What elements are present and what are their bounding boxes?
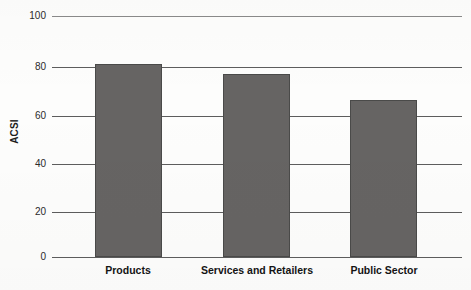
category-label-public-sector: Public Sector <box>350 264 417 276</box>
ytick-label-0: 0 <box>16 251 46 262</box>
category-label-services-and-retailers: Services and Retailers <box>201 264 313 276</box>
ytick-label-20: 20 <box>16 206 46 217</box>
ytick-label-80: 80 <box>16 61 46 72</box>
bar-services-and-retailers <box>223 74 290 257</box>
category-label-products: Products <box>105 264 151 276</box>
gridline-0 <box>52 257 462 258</box>
ytick-label-60: 60 <box>16 110 46 121</box>
bar-chart: 100 80 60 40 20 0 ACSI Products Services… <box>0 0 471 290</box>
ytick-label-100: 100 <box>16 10 46 21</box>
plot-area <box>0 0 471 290</box>
bar-products <box>95 64 162 257</box>
bar-public-sector <box>350 100 417 257</box>
gridline-100 <box>52 16 462 17</box>
ytick-label-40: 40 <box>16 158 46 169</box>
y-axis-title: ACSI <box>9 102 20 162</box>
